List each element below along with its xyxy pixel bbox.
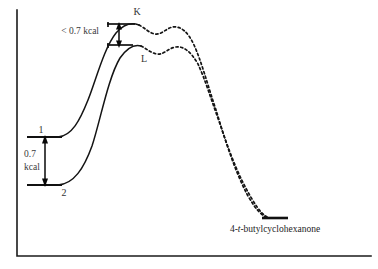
label-reactant-1: 1	[39, 124, 44, 135]
diagram-canvas: < 0.7 kcal K L 1 2 0.7 kcal 4-t-butylcyc…	[0, 0, 378, 269]
label-transition-state-K: K	[133, 6, 141, 17]
label-product: 4-t-butylcyclohexanone	[230, 224, 320, 234]
curve-upper-solid	[58, 24, 139, 137]
gap-arrow-transition-head-up	[116, 22, 122, 30]
label-transition-gap: < 0.7 kcal	[61, 26, 99, 36]
energy-diagram-figure: < 0.7 kcal K L 1 2 0.7 kcal 4-t-butylcyc…	[0, 0, 378, 269]
label-reactant-gap-value: 0.7	[24, 149, 36, 159]
label-transition-state-L: L	[141, 53, 147, 64]
label-product-prefix: 4-	[230, 224, 238, 234]
label-product-suffix: -butylcyclohexanone	[240, 224, 320, 234]
label-reactant-2: 2	[62, 187, 67, 198]
label-reactant-gap-unit: kcal	[24, 162, 40, 172]
curve-lower-dashed	[141, 46, 269, 218]
